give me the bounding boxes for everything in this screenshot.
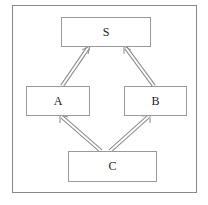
edge-a-to-s xyxy=(62,46,90,86)
node-a: A xyxy=(26,86,90,116)
edge-c-to-a xyxy=(60,115,101,151)
node-c-label: C xyxy=(108,159,116,174)
node-c: C xyxy=(68,151,157,182)
edge-b-to-s xyxy=(124,46,154,86)
node-s: S xyxy=(61,17,151,47)
edge-c-to-b xyxy=(110,115,150,151)
node-b: B xyxy=(124,86,187,116)
node-s-label: S xyxy=(103,25,110,40)
node-b-label: B xyxy=(151,94,159,109)
node-a-label: A xyxy=(54,94,63,109)
